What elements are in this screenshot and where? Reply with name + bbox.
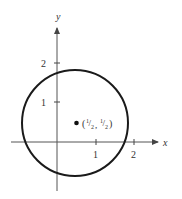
y-axis-label: y [55,11,61,22]
x-axis-label: x [162,137,168,148]
y-tick-label-2: 2 [41,58,46,69]
diagram: x y 1 2 1 2 ( 1 / 2 , 1 / 2 ) [0,0,182,199]
center-label: ( 1 / 2 , 1 / 2 ) [82,118,112,130]
x-tick-label-2: 2 [131,149,136,160]
svg-text:2: 2 [91,124,94,130]
svg-text:2: 2 [105,124,108,130]
x-tick-label-1: 1 [93,149,98,160]
svg-text:,: , [95,120,97,130]
y-tick-label-1: 1 [41,97,46,108]
svg-text:): ) [109,118,112,130]
center-point [74,121,79,126]
